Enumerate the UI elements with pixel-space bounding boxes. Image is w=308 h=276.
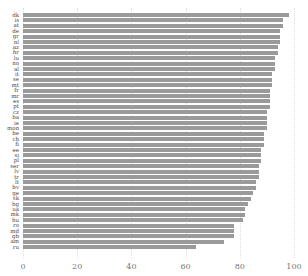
bar	[23, 143, 264, 147]
bar	[23, 175, 259, 179]
bar	[23, 137, 264, 141]
bar	[23, 121, 267, 125]
bar	[23, 245, 196, 249]
bar	[23, 67, 275, 71]
bar	[23, 105, 270, 109]
x-tick-label: 0	[20, 262, 25, 271]
gridline	[294, 8, 295, 258]
x-tick-label: 60	[181, 262, 191, 271]
bar	[23, 159, 261, 163]
bar	[23, 224, 234, 228]
bar	[23, 202, 248, 206]
x-tick-label: 40	[126, 262, 136, 271]
bar	[23, 240, 224, 244]
horizontal-bar-chart: 020406080100dkisatdegrnlazhrlunoalitsemt…	[0, 0, 308, 276]
bar	[23, 234, 234, 238]
category-label: ru	[0, 245, 19, 250]
bar	[23, 207, 245, 211]
bar	[23, 89, 270, 93]
bar	[23, 116, 267, 120]
bar	[23, 24, 283, 28]
bar	[23, 180, 256, 184]
bar	[23, 94, 270, 98]
bar	[23, 191, 253, 195]
bar	[23, 218, 243, 222]
bar	[23, 186, 256, 190]
bar	[23, 110, 267, 114]
x-tick-label: 20	[72, 262, 82, 271]
bar	[23, 51, 278, 55]
bar	[23, 99, 270, 103]
x-tick-label: 100	[286, 262, 301, 271]
bar	[23, 56, 275, 60]
bar	[23, 132, 264, 136]
bar	[23, 62, 275, 66]
bar	[23, 45, 278, 49]
bar	[23, 29, 280, 33]
bar	[23, 148, 261, 152]
bar	[23, 13, 289, 17]
bar	[23, 197, 251, 201]
bar	[23, 170, 259, 174]
x-tick-label: 80	[235, 262, 245, 271]
bar	[23, 72, 272, 76]
bar	[23, 213, 245, 217]
bar	[23, 78, 272, 82]
bar	[23, 18, 283, 22]
bar	[23, 164, 259, 168]
bar	[23, 229, 234, 233]
bar	[23, 35, 280, 39]
bar	[23, 153, 261, 157]
bar	[23, 83, 272, 87]
bar	[23, 126, 267, 130]
bar	[23, 40, 280, 44]
